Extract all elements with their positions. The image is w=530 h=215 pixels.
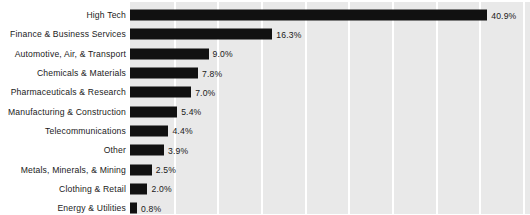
bar[interactable] — [130, 48, 209, 59]
bar-chart: High Tech40.9%Finance & Business Service… — [0, 0, 530, 214]
bar[interactable] — [130, 68, 198, 79]
bar-value-label: 16.3% — [276, 29, 301, 39]
bar-row[interactable]: Metals, Minerals, & Mining2.5% — [0, 160, 530, 179]
bar-row[interactable]: Manufacturing & Construction5.4% — [0, 102, 530, 121]
bar[interactable] — [130, 125, 168, 136]
bar-container: 7.0% — [130, 87, 215, 98]
bar[interactable] — [130, 29, 272, 40]
category-label: Other — [104, 145, 126, 155]
bar-container: 3.9% — [130, 145, 188, 156]
bar-container: 5.4% — [130, 106, 201, 117]
bar-row[interactable]: High Tech40.9% — [0, 6, 530, 25]
bar-row[interactable]: Automotive, Air, & Transport9.0% — [0, 44, 530, 63]
category-label: High Tech — [86, 10, 126, 20]
bar-value-label: 9.0% — [213, 49, 233, 59]
bar-row[interactable]: Clothing & Retail2.0% — [0, 179, 530, 198]
bar-value-label: 7.0% — [195, 87, 215, 97]
bar-row[interactable]: Other3.9% — [0, 141, 530, 160]
bar-container: 4.4% — [130, 125, 193, 136]
bar-value-label: 2.5% — [156, 165, 176, 175]
bar-value-label: 2.0% — [151, 184, 171, 194]
bar-row[interactable]: Pharmaceuticals & Research7.0% — [0, 83, 530, 102]
bar-container: 2.5% — [130, 164, 176, 175]
bar-value-label: 7.8% — [202, 68, 222, 78]
bar[interactable] — [130, 164, 152, 175]
category-label: Clothing & Retail — [59, 184, 126, 194]
bar-value-label: 40.9% — [491, 10, 516, 20]
category-label: Finance & Business Services — [10, 29, 126, 39]
bar[interactable] — [130, 183, 147, 194]
bar-container: 0.8% — [130, 203, 161, 214]
bar-row[interactable]: Energy & Utilities0.8% — [0, 199, 530, 215]
category-label: Energy & Utilities — [57, 203, 126, 213]
bar-container: 9.0% — [130, 48, 233, 59]
bar-value-label: 3.9% — [168, 145, 188, 155]
bar-container: 16.3% — [130, 29, 302, 40]
bar-row[interactable]: Finance & Business Services16.3% — [0, 25, 530, 44]
bar-value-label: 4.4% — [172, 126, 192, 136]
bar[interactable] — [130, 106, 177, 117]
category-label: Telecommunications — [45, 126, 126, 136]
bar-row[interactable]: Telecommunications4.4% — [0, 121, 530, 140]
category-label: Manufacturing & Construction — [8, 107, 126, 117]
bar-value-label: 0.8% — [141, 203, 161, 213]
category-label: Automotive, Air, & Transport — [15, 49, 126, 59]
bar-row[interactable]: Chemicals & Materials7.8% — [0, 63, 530, 82]
category-label: Pharmaceuticals & Research — [11, 87, 126, 97]
bar[interactable] — [130, 203, 137, 214]
bar[interactable] — [130, 87, 191, 98]
bar-value-label: 5.4% — [181, 107, 201, 117]
bar-container: 2.0% — [130, 183, 172, 194]
bar[interactable] — [130, 10, 487, 21]
category-label: Metals, Minerals, & Mining — [21, 165, 126, 175]
bar[interactable] — [130, 145, 164, 156]
bar-container: 40.9% — [130, 10, 516, 21]
bar-container: 7.8% — [130, 68, 222, 79]
category-label: Chemicals & Materials — [37, 68, 126, 78]
